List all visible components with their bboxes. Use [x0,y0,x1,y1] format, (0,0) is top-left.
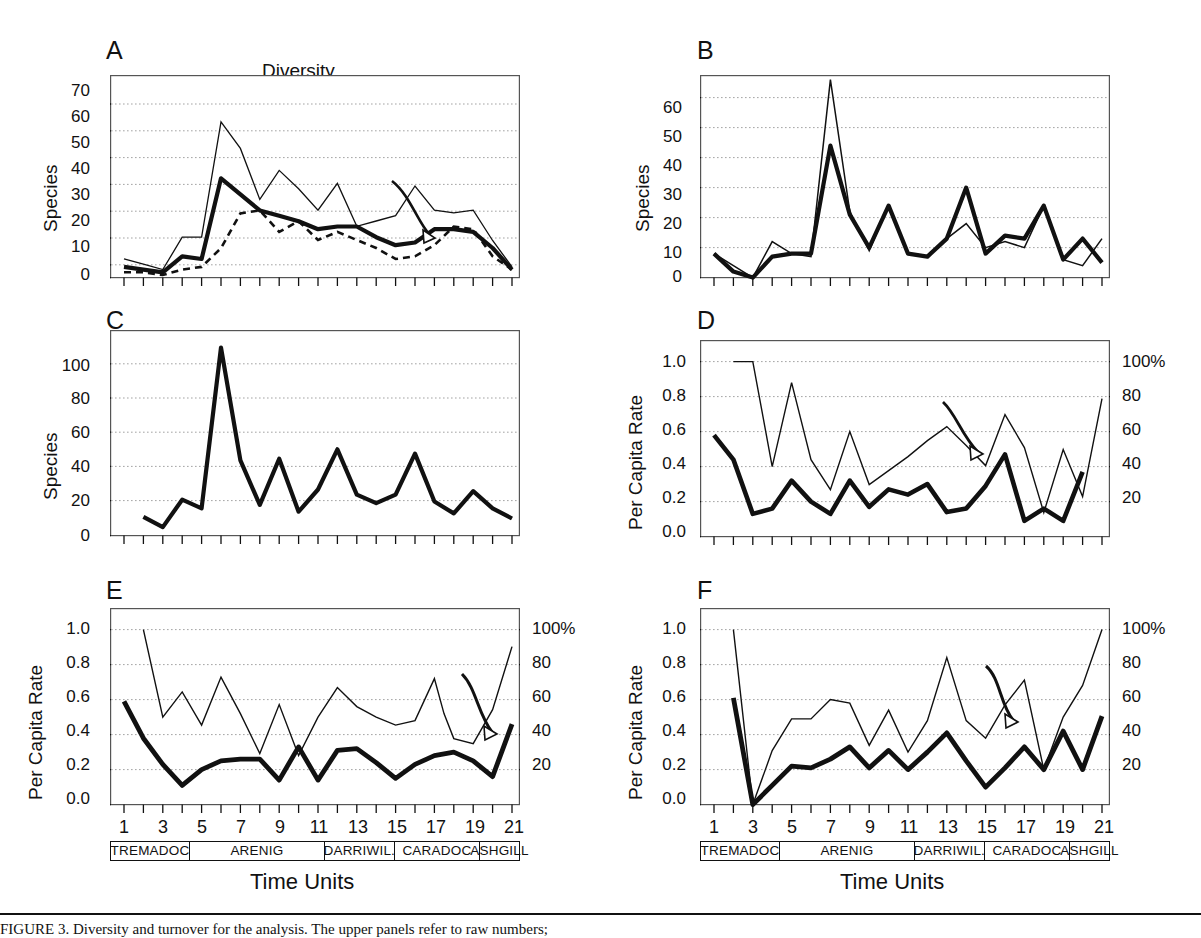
panel-a-ytick-50: 50 [46,134,90,151]
panel-e-xtick-11: 11 [299,818,339,836]
panel-f-stage-bar: TREMADOC ARENIG DARRIWIL. CARADOC ASHGIL… [700,841,1110,861]
panel-a-ytick-60: 60 [46,108,90,125]
panel-e-ytick-right-80: 80 [532,654,594,671]
panel-e-ytick-right-100: 100% [532,620,594,637]
panel-f-ytick-right-60: 60 [1122,688,1182,705]
panel-e-ytick-04: 0.4 [38,722,90,739]
panel-e-letter: E [106,578,123,603]
panel-b-ytick-50: 50 [638,128,682,145]
figure-caption: FIGURE 3. Diversity and turnover for the… [0,921,1201,938]
panel-e-stage-bar: TREMADOC ARENIG DARRIWIL. CARADOC ASHGIL… [110,841,520,861]
panel-f-ytick-00: 0.0 [638,790,686,807]
panel-e-xtick-9: 9 [260,818,300,836]
panel-e-xtick-13: 13 [338,818,378,836]
panel-d-ytick-1: 1.0 [638,353,686,370]
panel-d-ytick-right-80: 80 [1122,387,1182,404]
panel-d-ytick-00: 0.0 [638,523,686,540]
panel-e-ytick-06: 0.6 [38,688,90,705]
panel-d-ytick-08: 0.8 [638,387,686,404]
panel-e-x-axis-title: Time Units [250,869,354,895]
panel-e-ytick-1: 1.0 [38,620,90,637]
panel-f-x-axis-title: Time Units [840,869,944,895]
panel-d-ytick-right-20: 20 [1122,489,1182,506]
panel-d-letter: D [697,308,715,333]
panel-e-plot [110,608,520,814]
panel-d-xticks [714,537,1102,545]
panel-f-xtick-11: 11 [889,818,929,836]
panel-b-svg [700,75,1110,287]
panel-b-xticks [714,278,1102,286]
panel-c-xticks [124,536,512,544]
panel-a-plot [110,75,520,287]
panel-e-ytick-right-40: 40 [532,722,594,739]
figure-bottom-rule [0,913,1201,915]
panel-d-ytick-02: 0.2 [638,489,686,506]
panel-c-ytick-60: 60 [38,424,90,441]
panel-d-ytick-04: 0.4 [638,455,686,472]
panel-c-svg [110,330,520,546]
panel-f-xtick-5: 5 [772,818,812,836]
panel-d-svg [700,340,1110,546]
panel-e-xtick-21: 21 [494,818,534,836]
panel-a-svg [110,75,520,287]
panel-e-xtick-17: 17 [416,818,456,836]
panel-c-ytick-80: 80 [38,390,90,407]
panel-a-ytick-30: 30 [46,186,90,203]
panel-f-ytick-right-40: 40 [1122,722,1182,739]
panel-b-ytick-40: 40 [638,157,682,174]
panel-a-xticks [124,278,512,286]
panel-f-xtick-15: 15 [967,818,1007,836]
panel-f-plot [700,608,1110,814]
panel-a-letter: A [106,38,123,63]
panel-f-svg [700,608,1110,814]
panel-f-xtick-1: 1 [694,818,734,836]
panel-f-ytick-right-100: 100% [1122,620,1182,637]
panel-c-frame [111,331,520,536]
panel-e-xticks [124,805,512,813]
panel-f-ytick-02: 0.2 [638,756,686,773]
panel-e-xtick-19: 19 [455,818,495,836]
panel-a-ytick-20: 20 [46,212,90,229]
panel-a-ytick-10: 10 [46,238,90,255]
panel-a-ytick-40: 40 [46,160,90,177]
panel-b-plot [700,75,1110,287]
panel-f-ytick-1: 1.0 [638,620,686,637]
panel-f-xtick-17: 17 [1006,818,1046,836]
panel-e-xtick-1: 1 [104,818,144,836]
stage-caradoc: CARADOC [395,842,480,860]
panel-b-ytick-0: 0 [638,268,682,285]
panel-b-ytick-30: 30 [638,186,682,203]
stage-darriwil: DARRIWIL. [915,842,985,860]
panel-f-xtick-7: 7 [811,818,851,836]
panel-c-ytick-0: 0 [38,527,90,544]
panel-f-ytick-08: 0.8 [638,654,686,671]
stage-ashgill: ASHGILL [1070,842,1109,860]
panel-f-xtick-3: 3 [733,818,773,836]
panel-b-ytick-60: 60 [638,99,682,116]
panel-c-ytick-40: 40 [38,458,90,475]
stage-caradoc: CARADOC [985,842,1070,860]
stage-tremadoc: TREMADOC [111,842,190,860]
panel-f-ytick-right-80: 80 [1122,654,1182,671]
panel-b-letter: B [697,38,714,63]
panel-b-ytick-20: 20 [638,215,682,232]
panel-f-xticks [714,805,1102,813]
panel-e-svg [110,608,520,814]
panel-f-letter: F [697,578,712,603]
panel-c-ytick-20: 20 [38,492,90,509]
panel-d-ytick-06: 0.6 [638,421,686,438]
panel-c-ytick-100: 100 [38,357,90,374]
stage-tremadoc: TREMADOC [701,842,780,860]
panel-f-ytick-06: 0.6 [638,688,686,705]
panel-f-frame [701,609,1110,805]
panel-f-xtick-9: 9 [850,818,890,836]
stage-ashgill: ASHGILL [480,842,519,860]
panel-d-ytick-right-100: 100% [1122,353,1182,370]
panel-d-plot [700,340,1110,546]
panel-f-ytick-04: 0.4 [638,722,686,739]
panel-b-ytick-10: 10 [638,244,682,261]
panel-e-ytick-right-60: 60 [532,688,594,705]
panel-f-xtick-13: 13 [928,818,968,836]
stage-darriwil: DARRIWIL. [325,842,395,860]
